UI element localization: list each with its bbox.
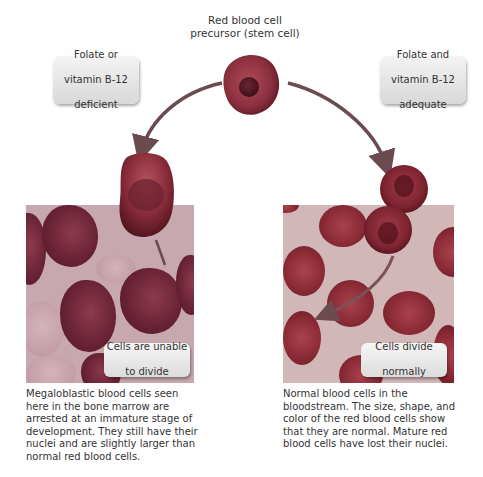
- normal-caption: Normal blood cells in the bloodstream. T…: [283, 388, 461, 451]
- dividing-cells: [364, 165, 428, 254]
- arrow-divide: [325, 256, 393, 315]
- stem-cell: [224, 55, 280, 115]
- megaloblast-3d-cell: [120, 153, 174, 237]
- arrow-to-adequate: [288, 83, 386, 165]
- callout-left-line-1: Cells are unable: [107, 341, 188, 354]
- callout-right-line-1: Cells divide: [375, 341, 432, 354]
- callout-left-line-2: to divide: [107, 366, 188, 379]
- megaloblastic-caption: Megaloblastic blood cells seen here in t…: [26, 388, 204, 464]
- arrow-to-deficient: [142, 83, 222, 150]
- callout-right-line-2: normally: [375, 366, 432, 379]
- divide-normally-callout: Cells divide normally: [361, 343, 447, 377]
- unable-to-divide-callout: Cells are unable to divide: [104, 343, 190, 377]
- arrested-connector: [156, 240, 165, 265]
